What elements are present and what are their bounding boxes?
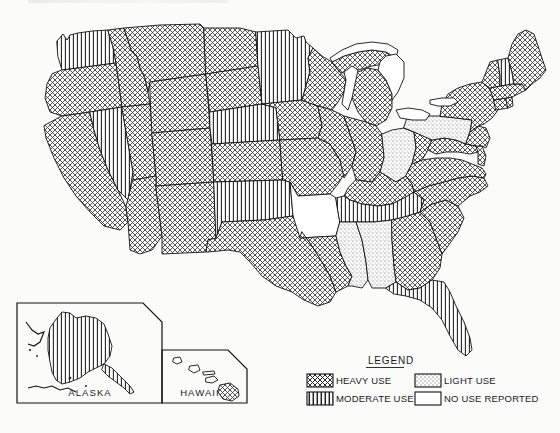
us-use-map: ALASKA HAWAII LEGEND HEAVY USE LIGHT USE… (0, 0, 560, 433)
alaska-label: ALASKA (68, 387, 112, 398)
state-FL[interactable] (386, 280, 472, 356)
island-hawaii[interactable] (218, 383, 239, 401)
lake-erie (396, 108, 430, 120)
legend-label-moderate: MODERATE USE (336, 393, 414, 404)
state-WY[interactable] (150, 74, 210, 133)
legend: LEGEND HEAVY USE LIGHT USE MODERATE USE … (307, 355, 539, 405)
island-molokai[interactable] (203, 371, 215, 375)
legend-swatch-moderate[interactable] (307, 392, 333, 405)
legend-title: LEGEND (368, 355, 414, 366)
state-VT[interactable] (482, 60, 500, 88)
island-maui[interactable] (206, 376, 218, 383)
island-oahu[interactable] (189, 365, 200, 373)
state-NM[interactable] (156, 182, 216, 254)
state-CO[interactable] (152, 128, 214, 186)
legend-swatch-heavy[interactable] (307, 374, 333, 387)
legend-swatch-light[interactable] (415, 374, 441, 387)
alaska-coast-detail (26, 322, 44, 346)
legend-swatch-none[interactable] (415, 392, 441, 405)
state-AK[interactable] (48, 312, 112, 384)
state-DE[interactable] (476, 146, 486, 166)
island-kauai[interactable] (173, 357, 182, 364)
contiguous-states (44, 24, 546, 356)
state-NE[interactable] (210, 104, 280, 144)
alaska-inset: ALASKA (17, 303, 162, 403)
legend-label-heavy: HEAVY USE (336, 375, 391, 386)
state-ME[interactable] (508, 30, 546, 90)
hawaii-inset: HAWAII (162, 350, 247, 403)
legend-label-none: NO USE REPORTED (444, 393, 539, 404)
state-KS[interactable] (212, 140, 283, 182)
legend-label-light: LIGHT USE (444, 375, 496, 386)
hawaii-label: HAWAII (180, 387, 220, 398)
state-OR[interactable] (45, 63, 122, 116)
